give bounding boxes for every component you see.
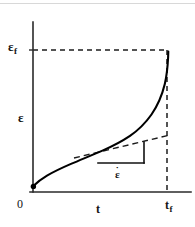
steady-state-tangent-line [74, 135, 170, 158]
creep-curve-canvas [0, 0, 195, 227]
y-axis-max-symbol: ε [8, 39, 14, 54]
origin-label: 0 [17, 198, 23, 210]
strain-rate-label: ·ε [115, 166, 120, 180]
y-axis-max-subscript: f [14, 46, 17, 56]
x-axis-max-symbol: t [165, 198, 169, 212]
creep-curve-figure: εf ε 0 t tf ·ε [0, 0, 195, 227]
curve-start-dot [31, 184, 36, 189]
y-axis-max-label: εf [8, 40, 17, 56]
x-axis-max-label: tf [165, 199, 173, 214]
x-axis-label: t [96, 203, 100, 215]
y-axis-label: ε [18, 111, 24, 124]
x-axis-max-subscript: f [170, 204, 173, 214]
strain-rate-symbol: ε [115, 168, 120, 180]
creep-curve-path [33, 52, 168, 187]
